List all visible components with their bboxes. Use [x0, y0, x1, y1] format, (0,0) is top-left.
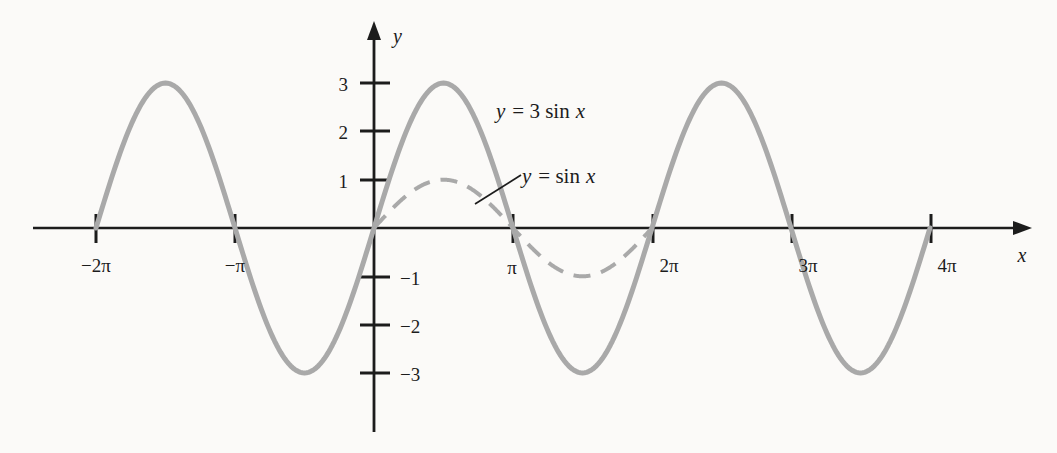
y-tick-label-n3: −3 [400, 364, 420, 385]
svg-text:y= 3 sinx: y= 3 sinx [494, 99, 586, 123]
annotation-sinx-x: x [585, 164, 596, 188]
x-tick-label-2pi: 2π [659, 255, 679, 276]
y-tick-label-3: 3 [339, 74, 349, 95]
x-tick-label-4pi: 4π [937, 255, 957, 276]
trig-graph-svg: −2π −π π 2π 3π 4π 3 2 1 −1 −2 −3 y x y= … [0, 0, 1057, 453]
x-axis-label: x [1017, 244, 1027, 266]
annotation-3sinx: y= 3 sinx [494, 99, 586, 123]
axes-group [33, 21, 1032, 432]
annotation-3sinx-y: y [494, 99, 506, 123]
y-tick-label-2: 2 [339, 122, 349, 143]
y-axis-arrowhead [367, 21, 381, 40]
annotation-sinx-y: y [520, 164, 532, 188]
x-tick-label-3pi: 3π [798, 255, 818, 276]
y-tick-label-1: 1 [339, 171, 349, 192]
y-axis-label: y [391, 25, 402, 48]
svg-text:y= sinx: y= sinx [520, 164, 596, 188]
x-tick-label-pi: π [507, 257, 517, 278]
y-tick-label-n1: −1 [400, 268, 420, 289]
figure-canvas: −2π −π π 2π 3π 4π 3 2 1 −1 −2 −3 y x y= … [0, 0, 1057, 453]
x-axis-arrowhead [1013, 221, 1032, 235]
annotation-sinx-rest: = sin [538, 164, 580, 188]
annotation-3sinx-rest: = 3 sin [512, 99, 570, 123]
annotation-3sinx-x: x [575, 99, 586, 123]
y-tick-label-n2: −2 [400, 316, 420, 337]
x-tick-label-neg2pi: −2π [81, 255, 111, 276]
x-tick-label-negpi: −π [225, 255, 246, 276]
